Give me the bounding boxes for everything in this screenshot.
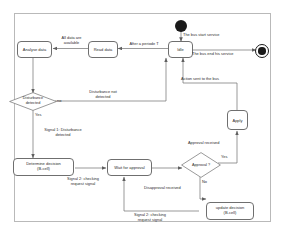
node-idle[interactable]: Idle [168,41,193,58]
node-apply[interactable]: Apply [227,110,248,130]
edge-label-signal-2-checking-bottom: Signal 2: checking request signal [124,213,176,223]
edge-label-signal-2-checking-top: Signal 2: checking request signal [57,177,109,187]
node-read-data[interactable]: Read data [88,41,118,58]
connector-apply-to-idle [183,58,237,110]
edge-label-signal-1-disturbance: Signal 1: Disturbance detected [34,128,92,138]
edge-label-disturbance-yes: Yes [35,113,47,118]
node-idle-label: Idle [177,47,184,52]
edge-label-disturbance-no: no [57,99,67,104]
node-approval-question[interactable] [181,152,221,178]
edge-label-bus-end-service: The bus end his service [192,52,254,57]
node-analyse-data[interactable]: Analyse data [17,41,52,58]
final-node [255,44,269,58]
edge-label-approval-yes: Yes [221,155,233,160]
connector-update-to-wait [124,177,199,211]
edge-label-all-data-available: All data are available [54,36,89,46]
node-disturbance-detected[interactable] [9,92,57,111]
node-apply-label: Apply [232,118,242,123]
initial-node [175,20,187,32]
node-determine-decision-label: Determine decision (B-cell) [26,162,61,172]
node-determine-decision[interactable]: Determine decision (B-cell) [13,158,74,176]
node-wait-for-approval[interactable]: Wait for approval [107,159,152,176]
edge-label-action-sent-to-bus: Action sent to the bus [168,77,232,82]
node-update-decision[interactable]: update decision (B-cell) [206,202,254,220]
edge-label-approval-no: No [202,180,212,185]
node-analyse-data-label: Analyse data [23,47,46,52]
diagram-canvas: Idle Read data Analyse data Disturbance … [0,0,285,235]
edge-label-after-periode-t: After a periode T [119,42,169,47]
node-read-data-label: Read data [94,47,113,52]
node-wait-for-approval-label: Wait for approval [114,165,144,170]
node-update-decision-label: update decision (B-cell) [216,206,244,216]
edge-label-approval-received: Approval received [188,141,244,146]
edge-label-disapproval-received: Disapproval received [144,186,198,191]
edge-label-disturbance-not-detected: Disturbance not detected [77,90,129,100]
edge-label-bus-start-service: The bus start service [183,33,243,38]
